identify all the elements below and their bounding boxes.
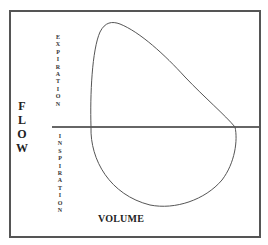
label-letter: X [53,41,63,48]
label-letter: N [55,207,65,214]
label-letter: T [55,185,65,192]
volume-axis-label: VOLUME [98,213,144,224]
expiration-label-letters: EXPIRATION [53,34,63,108]
flow-axis-label: FLOW FLOW [12,99,32,155]
label-letter: A [53,71,63,78]
label-letter: I [55,163,65,170]
inspiration-label-letters: INSPIRATION [55,133,65,214]
expiration-curve [91,23,235,127]
label-letter: T [53,78,63,85]
label-letter: S [55,148,65,155]
flow-axis-letters: FLOW [12,99,32,155]
label-letter: N [53,101,63,108]
label-letter: I [53,86,63,93]
label-letter: P [53,49,63,56]
label-letter: O [53,93,63,100]
label-letter: O [55,200,65,207]
label-letter: F [12,99,32,113]
expiration-label: EXPIRATION EXPIRATION [53,34,63,108]
label-letter: R [55,170,65,177]
inspiration-label: INSPIRATION INSPIRATION [55,133,65,214]
label-letter: P [55,155,65,162]
label-letter: L [12,113,32,127]
label-letter: I [53,56,63,63]
label-letter: I [55,133,65,140]
label-letter: E [53,34,63,41]
label-letter: R [53,64,63,71]
label-letter: N [55,140,65,147]
label-letter: O [12,127,32,141]
label-letter: A [55,177,65,184]
label-letter: W [12,141,32,155]
inspiration-curve [91,127,236,206]
label-letter: I [55,192,65,199]
flow-volume-loop-plot [0,0,268,245]
